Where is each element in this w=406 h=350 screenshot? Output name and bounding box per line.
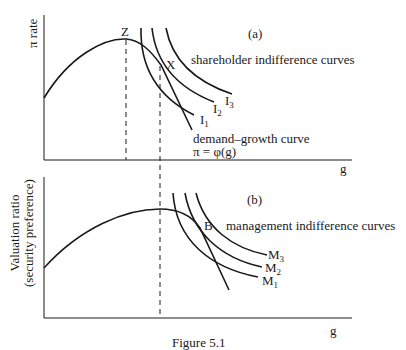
- curve-i1-label: I1: [200, 113, 209, 126]
- demand-formula: π = φ(g): [193, 145, 236, 158]
- figure-caption: Figure 5.1: [172, 336, 225, 349]
- curve-i2-label: I2: [213, 102, 222, 115]
- curve-i3-label: I3: [225, 94, 234, 107]
- management-indifference-label: management indifference curves: [226, 219, 395, 232]
- panel-b-tag: (b): [247, 193, 262, 206]
- panel-a-demand-growth-curve: [44, 39, 192, 130]
- shareholder-indifference-label: shareholder indifference curves: [191, 53, 355, 66]
- y-label-line2: (security preference): [22, 179, 36, 287]
- panel-b-y-axis-label: Valuation ratio (security preference): [8, 179, 37, 287]
- point-x-label: X: [166, 58, 175, 71]
- curve-m1-label: M1: [262, 274, 278, 287]
- panel-a-y-axis-label: π rate: [26, 19, 40, 48]
- indifference-curve-m1: [173, 193, 258, 277]
- panel-b-valuation-curve: [44, 209, 229, 290]
- point-b-label: B: [204, 219, 213, 232]
- panel-a-tag: (a): [248, 27, 262, 40]
- panel-a-x-axis-label: g: [340, 162, 347, 175]
- point-z-label: Z: [121, 25, 129, 38]
- panel-b-x-axis-label: g: [330, 324, 337, 337]
- y-label-line1: Valuation ratio: [8, 179, 22, 287]
